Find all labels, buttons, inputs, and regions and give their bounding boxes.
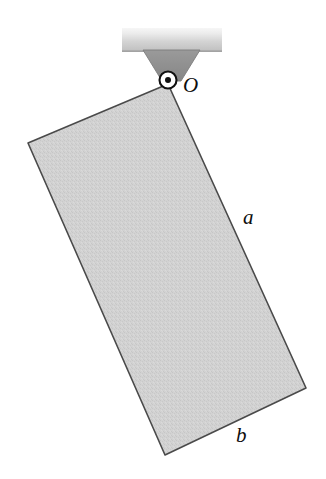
ceiling-bar-body [122, 28, 222, 52]
rectangular-plate [28, 84, 306, 455]
figure-container: O a b [0, 0, 326, 479]
plate-outline [28, 84, 306, 455]
side-label-b: b [236, 423, 247, 447]
pivot-label-O: O [183, 73, 198, 97]
pivot-center-dot-icon [165, 77, 171, 83]
pivot-point-marker [160, 72, 177, 89]
physics-diagram-canvas: O a b [0, 0, 326, 479]
ceiling-support-bar [122, 28, 222, 52]
side-label-a: a [243, 205, 254, 229]
